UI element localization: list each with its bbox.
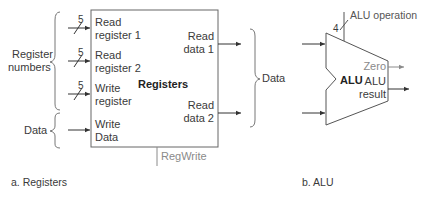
- alu-operation-label: ALU operation: [350, 9, 417, 22]
- read-data-1-label-line2: data 1: [172, 43, 214, 56]
- zero-label: Zero: [356, 60, 386, 73]
- bus-width-label: 5: [78, 46, 84, 59]
- register-numbers-label-line2: numbers: [8, 61, 51, 74]
- alu-result-label-line2: result: [350, 88, 386, 101]
- read-register-1-label-line2: register 1: [95, 29, 141, 42]
- write-data-label-line1: Write: [95, 118, 120, 131]
- bus-width-label: 5: [78, 13, 84, 26]
- read-register-1-label-line1: Read: [95, 16, 121, 29]
- register-numbers-label-line1: Register: [12, 48, 53, 61]
- write-register-label-line2: register: [95, 95, 132, 108]
- read-data-2-label-line1: Read: [172, 99, 214, 112]
- registers-caption: a. Registers: [11, 176, 67, 189]
- read-register-2-label-line2: register 2: [95, 62, 141, 75]
- read-data-1-label-line1: Read: [172, 30, 214, 43]
- bus-width-label: 5: [78, 79, 84, 92]
- data-in-brace: [50, 113, 60, 148]
- read-data-2-label-line2: data 2: [172, 112, 214, 125]
- regwrite-label: RegWrite: [161, 150, 207, 163]
- alu-result-label-line1: ALU: [356, 75, 386, 88]
- alu-caption: b. ALU: [302, 176, 334, 189]
- register-output-arrows: [218, 44, 241, 113]
- register-numbers-brace: [50, 12, 60, 110]
- read-register-2-label-line1: Read: [95, 49, 121, 62]
- write-register-label-line1: Write: [95, 82, 120, 95]
- data-in-label: Data: [24, 124, 47, 137]
- registers-block-label: Registers: [138, 78, 188, 91]
- write-data-label-line2: Data: [95, 131, 118, 144]
- alu-input-arrows: [302, 44, 325, 113]
- alu-operation-width: 4: [333, 22, 339, 35]
- data-out-brace: [250, 29, 260, 127]
- data-out-label: Data: [262, 72, 285, 85]
